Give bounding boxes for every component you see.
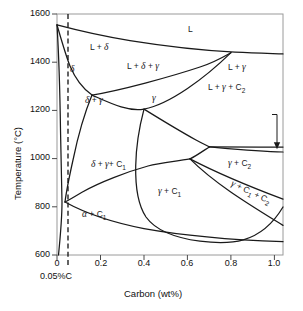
curve-delta-left-edge — [57, 25, 62, 255]
region-label-l-delta-gamma: L + δ + γ — [127, 61, 159, 71]
y-tick-800: 800 — [22, 201, 50, 211]
region-label-delta-gamma-c1: δ + γ+ C1 — [91, 159, 126, 171]
curve-delta-solidus — [57, 25, 92, 95]
x-axis-title: Carbon (wt%) — [124, 288, 182, 299]
curve-gamma-liquidus — [144, 109, 209, 147]
region-label-l-gamma-c2: L + γ + C2 — [208, 82, 245, 94]
dashed-line-annotation: 0.05%C — [40, 272, 72, 281]
region-label-gamma-c1: γ + C1 — [158, 186, 181, 198]
x-tick-1.0: 1.0 — [262, 258, 286, 268]
region-label-liquid: L — [188, 24, 193, 34]
y-axis-title: Temperature (°C) — [12, 127, 23, 200]
region-label-delta: δ — [70, 64, 74, 74]
region-label-gamma: γ — [152, 93, 156, 103]
x-tick-0.6: 0.6 — [175, 258, 199, 268]
y-axis-ticks — [52, 14, 57, 255]
curve-delta-right-solvus — [65, 95, 92, 202]
y-tick-1400: 1400 — [22, 56, 50, 66]
y-tick-1200: 1200 — [22, 104, 50, 114]
region-label-l-delta: L + δ — [90, 42, 109, 52]
region-label-alpha-c1: α + C1 — [82, 209, 106, 221]
l-gamma-c2-leader-arrow — [272, 115, 280, 150]
x-tick-0.8: 0.8 — [219, 258, 243, 268]
curve-gamma-right-boundary — [190, 147, 209, 159]
region-label-delta-gamma: δ + γ — [85, 95, 103, 105]
phase-diagram-figure: 1600 1400 1200 1000 800 600 0 0.2 0.4 0.… — [0, 0, 303, 311]
y-tick-1600: 1600 — [22, 8, 50, 18]
y-tick-1000: 1000 — [22, 152, 50, 162]
x-tick-0.4: 0.4 — [132, 258, 156, 268]
x-tick-0.2: 0.2 — [89, 258, 113, 268]
y-tick-600: 600 — [22, 249, 50, 259]
region-label-l-gamma: L + γ — [228, 62, 246, 72]
x-tick-0: 0 — [52, 258, 62, 268]
region-label-gamma-c2: γ + C2 — [228, 158, 251, 170]
